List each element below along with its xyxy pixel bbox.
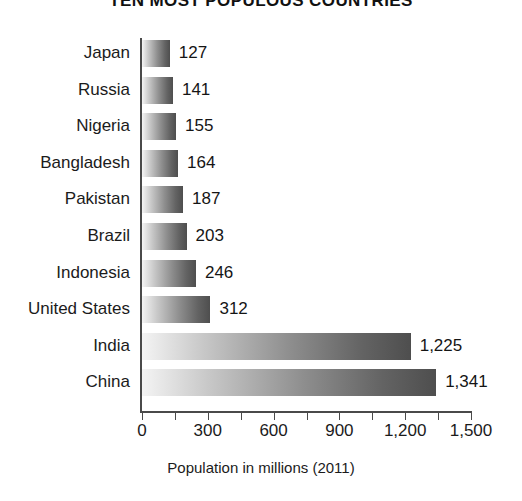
bar-indonesia [142, 260, 196, 287]
category-label: Brazil [87, 225, 130, 247]
x-axis-tick-label: 1,500 [450, 421, 493, 441]
category-label: Russia [78, 79, 130, 101]
bar-value-label: 164 [187, 152, 215, 174]
x-axis-tick [307, 413, 308, 420]
bar-value-label: 141 [182, 79, 210, 101]
x-axis-tick [241, 413, 242, 420]
x-axis-tick-label: 300 [194, 421, 222, 441]
category-label: China [86, 371, 130, 393]
population-bar-chart: TEN MOST POPULOUS COUNTRIES 03006009001,… [0, 0, 522, 501]
bar-value-label: 246 [205, 262, 233, 284]
x-axis-tick [438, 413, 439, 420]
category-label: India [93, 335, 130, 357]
bar-row: China1,341 [0, 369, 522, 396]
bar-russia [142, 77, 173, 104]
bar-value-label: 127 [179, 42, 207, 64]
bar-row: Nigeria155 [0, 113, 522, 140]
x-axis-tick [372, 413, 373, 420]
bar-india [142, 333, 411, 360]
bar-value-label: 155 [185, 115, 213, 137]
category-label: Japan [84, 42, 130, 64]
category-label: Nigeria [76, 115, 130, 137]
plot-area: 03006009001,2001,500 Japan127Russia141Ni… [0, 0, 522, 501]
x-axis-tick-label: 1,200 [384, 421, 427, 441]
x-axis-tick-label: 900 [325, 421, 353, 441]
x-axis-caption: Population in millions (2011) [0, 459, 522, 476]
bar-row: Pakistan187 [0, 186, 522, 213]
bar-row: United States312 [0, 296, 522, 323]
bar-nigeria [142, 113, 176, 140]
x-axis-tick [471, 413, 472, 420]
x-axis-tick [339, 413, 340, 420]
bar-row: India1,225 [0, 333, 522, 360]
bar-row: Indonesia246 [0, 260, 522, 287]
bar-value-label: 312 [219, 298, 247, 320]
bar-japan [142, 40, 170, 67]
bar-row: Brazil203 [0, 223, 522, 250]
x-axis-tick [208, 413, 209, 420]
x-axis-tick [274, 413, 275, 420]
bar-china [142, 369, 436, 396]
bar-value-label: 187 [192, 188, 220, 210]
bar-value-label: 1,225 [420, 335, 463, 357]
x-axis-tick [175, 413, 176, 420]
bar-pakistan [142, 186, 183, 213]
x-axis-tick-label: 0 [137, 421, 146, 441]
category-label: Bangladesh [40, 152, 130, 174]
bar-value-label: 1,341 [445, 371, 488, 393]
bar-bangladesh [142, 150, 178, 177]
category-label: United States [28, 298, 130, 320]
bar-brazil [142, 223, 187, 250]
bar-value-label: 203 [196, 225, 224, 247]
x-axis-tick-label: 600 [259, 421, 287, 441]
bar-united-states [142, 296, 210, 323]
category-label: Indonesia [56, 262, 130, 284]
bar-row: Japan127 [0, 40, 522, 67]
bar-row: Bangladesh164 [0, 150, 522, 177]
category-label: Pakistan [65, 188, 130, 210]
x-axis-tick [405, 413, 406, 420]
bar-row: Russia141 [0, 77, 522, 104]
x-axis-tick [142, 413, 143, 420]
